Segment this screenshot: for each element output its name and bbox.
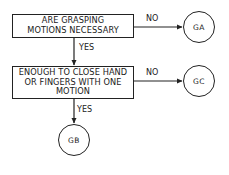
edge-label-q1-yes: YES [79,44,94,52]
edge-label-q1-no: NO [146,15,158,23]
terminal-node-gb: GB [58,124,90,156]
flowchart: ARE GRASPING MOTIONS NECESSARY ENOUGH TO… [0,0,229,175]
edge-label-q2-no: NO [146,69,158,77]
terminal-label: GB [68,136,80,145]
terminal-node-gc: GC [183,65,215,97]
decision-text: ARE GRASPING MOTIONS NECESSARY [27,16,119,35]
terminal-node-ga: GA [183,11,215,43]
terminal-label: GA [193,23,205,32]
terminal-label: GC [193,77,205,86]
decision-box-grasping-necessary: ARE GRASPING MOTIONS NECESSARY [12,14,134,38]
edge-label-q2-yes: YES [77,106,92,114]
decision-box-close-one-motion: ENOUGH TO CLOSE HAND OR FINGERS WITH ONE… [12,66,134,99]
decision-text: ENOUGH TO CLOSE HAND OR FINGERS WITH ONE… [19,68,127,97]
